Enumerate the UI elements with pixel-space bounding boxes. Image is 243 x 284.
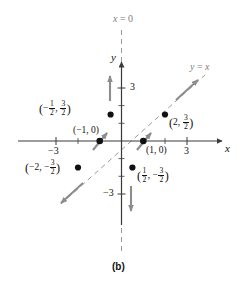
x-axis-label: x	[225, 143, 230, 154]
x-tick-label--3: −3	[48, 146, 59, 156]
y-tick-label--3: −3	[103, 188, 114, 198]
point-neg-two-neg-three-halves	[75, 164, 81, 170]
point-one-zero	[140, 138, 147, 145]
y-equals-x-rhs: x	[205, 61, 209, 72]
x-tick-label-3: 3	[184, 146, 189, 156]
arrow-down-left-diagonal	[61, 183, 83, 203]
x-equals-zero-rhs: 0	[128, 13, 133, 24]
arrow-up-right-diagonal	[176, 80, 198, 100]
point-half-neg-three-halves	[129, 164, 135, 170]
x-equals-zero-label: x = 0	[113, 14, 133, 24]
y-axis-label: y	[111, 52, 116, 63]
point-label-neg-two-neg-three-halves: (−2, −32)	[25, 159, 60, 175]
point-label-half-neg-three-halves: (12, −32)	[137, 167, 169, 183]
figure-caption: (b)	[112, 262, 125, 272]
point-neg-one-zero	[96, 138, 103, 145]
point-label-neg-one-zero: (−1, 0)	[73, 126, 99, 136]
point-two-three-halves	[162, 111, 168, 117]
y-tick-label-3: 3	[130, 82, 135, 92]
point-label-two-three-halves: (2, 32)	[169, 114, 193, 130]
point-label-one-zero: (1, 0)	[146, 146, 167, 156]
coordinate-plane-svg	[0, 0, 243, 284]
point-label-neg-half-three-halves: (−12, 32)	[39, 100, 71, 116]
y-equals-x-label: y = x	[190, 62, 210, 72]
coordinate-plane-figure: x = 0 y = x y x −3 3 3 −3 (−12, 32) (2, …	[0, 0, 243, 284]
point-neg-half-three-halves	[108, 111, 114, 117]
